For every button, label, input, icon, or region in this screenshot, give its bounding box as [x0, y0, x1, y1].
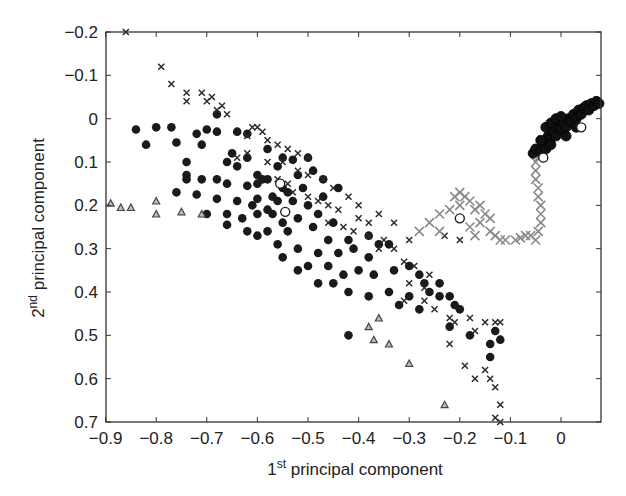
x-tick-label: −0.4 [342, 429, 376, 448]
data-point [482, 367, 488, 373]
data-point [314, 210, 323, 219]
y-tick-label: −0.2 [64, 23, 98, 42]
data-point [294, 244, 303, 253]
data-point [369, 270, 378, 279]
data-point [536, 201, 545, 210]
data-point [421, 298, 427, 304]
plot-frame [106, 32, 601, 422]
data-point [445, 205, 454, 214]
data-point [452, 319, 458, 325]
data-point [248, 201, 257, 210]
x-tick-label: −0.7 [190, 429, 224, 448]
data-point [345, 194, 351, 200]
data-point [294, 266, 303, 275]
data-point [172, 188, 181, 197]
data-point [344, 331, 353, 340]
data-point [455, 214, 464, 223]
y-tick-label: 0.7 [74, 413, 98, 432]
data-point [263, 145, 272, 154]
data-point [486, 353, 495, 362]
x-tick-label: −0.1 [494, 429, 528, 448]
data-point [273, 197, 282, 206]
data-point [278, 218, 287, 227]
data-point [432, 306, 438, 312]
data-point [234, 155, 240, 161]
data-point [465, 197, 474, 206]
y-axis-ticks: −0.2−0.100.10.20.30.40.50.60.7 [64, 23, 601, 432]
data-point [223, 158, 232, 167]
data-point [340, 224, 346, 230]
data-point [213, 127, 222, 136]
data-point [401, 259, 407, 265]
data-point [497, 319, 503, 325]
data-point [385, 288, 394, 297]
data-point [253, 231, 262, 240]
data-point [273, 240, 282, 249]
data-point [238, 214, 247, 223]
data-point [539, 153, 548, 162]
data-point [406, 237, 412, 243]
data-point [420, 279, 429, 288]
data-point [172, 138, 181, 147]
data-point [324, 236, 333, 245]
data-point [376, 211, 382, 217]
data-point [426, 272, 432, 278]
data-point [209, 94, 215, 100]
data-point [213, 175, 222, 184]
data-point [531, 166, 540, 175]
data-point [415, 270, 424, 279]
data-point [192, 190, 201, 199]
data-point [299, 184, 308, 193]
data-point [536, 218, 545, 227]
data-point [304, 262, 313, 271]
data-point [486, 214, 495, 223]
data-point [415, 227, 424, 236]
data-point [339, 270, 348, 279]
data-point [401, 298, 407, 304]
data-point [184, 98, 190, 104]
data-point [223, 179, 232, 188]
data-point [276, 179, 285, 188]
data-point [132, 125, 141, 134]
data-point [127, 204, 134, 211]
data-point [243, 153, 252, 162]
y-axis-label: 2nd principal component [26, 138, 48, 318]
data-point [178, 208, 185, 215]
data-point [305, 194, 311, 200]
y-tick-label: 0.2 [74, 196, 98, 215]
data-point [344, 288, 353, 297]
data-point [497, 402, 503, 408]
data-point [364, 253, 373, 262]
data-point [294, 171, 303, 180]
data-point [349, 244, 358, 253]
data-point [385, 341, 392, 348]
data-point [295, 150, 301, 156]
data-point [354, 266, 363, 275]
data-point [406, 360, 413, 367]
x-tick-label: −0.2 [443, 429, 477, 448]
data-point [324, 262, 333, 271]
data-point [152, 123, 161, 132]
data-point [366, 220, 372, 226]
data-point [531, 236, 540, 245]
scatter-chart: −0.9−0.8−0.7−0.6−0.5−0.4−0.3−0.2−0.10 −0… [0, 0, 626, 496]
data-point [197, 140, 206, 149]
data-point [491, 327, 500, 336]
data-point [275, 142, 281, 148]
data-point [465, 223, 474, 232]
data-point [213, 110, 222, 119]
data-point [457, 237, 463, 243]
x-tick-label: −0.5 [291, 429, 325, 448]
data-point [531, 175, 540, 184]
data-point [492, 384, 498, 390]
data-point [223, 210, 232, 219]
data-point [263, 227, 272, 236]
data-point [243, 227, 252, 236]
data-point [425, 218, 434, 227]
x-tick-label: −0.6 [241, 429, 275, 448]
data-point [445, 292, 454, 301]
x-axis-label: 1st principal component [267, 457, 443, 479]
data-point [356, 202, 362, 208]
data-point [472, 376, 478, 382]
data-point [534, 192, 543, 201]
